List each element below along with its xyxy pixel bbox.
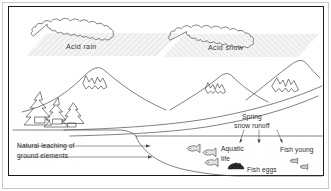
spring-runoff-label-line2: snow runoff	[234, 122, 269, 129]
aquatic-life-label-line1: Aquatic	[221, 145, 244, 153]
page-background	[0, 0, 331, 191]
fish-eggs-label: Fish eggs	[247, 166, 277, 174]
acid-rain-band	[26, 33, 178, 56]
acid-rain-diagram: Acid rain Acid snow	[0, 0, 331, 191]
fish-young-label: Fish young	[280, 146, 314, 154]
natural-leaching-label-line2: ground elements	[17, 152, 69, 160]
aquatic-life-label-line2: life	[221, 155, 230, 162]
natural-leaching-label-line1: Natural leaching of	[17, 142, 75, 150]
diagram-canvas: Acid rain Acid snow	[0, 0, 331, 191]
acid-rain-label: Acid rain	[66, 42, 97, 51]
spring-runoff-label-line1: Spring	[242, 113, 262, 121]
acid-snow-label: Acid snow	[208, 43, 244, 52]
